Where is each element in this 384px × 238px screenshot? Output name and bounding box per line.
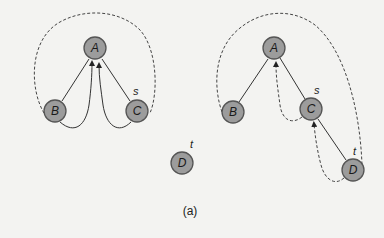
node-d: D: [171, 152, 193, 174]
svg-text:C: C: [307, 102, 316, 116]
label-t: t: [190, 138, 194, 150]
svg-text:D: D: [349, 163, 358, 177]
edge-c-a-curve: [99, 65, 131, 128]
node-c: C: [126, 100, 148, 122]
graph-figure: A B C s D t A B: [0, 0, 384, 238]
node-b: B: [222, 101, 244, 123]
label-s: s: [133, 85, 139, 97]
svg-text:B: B: [51, 104, 59, 118]
edge-d-c-dashed: [314, 124, 344, 182]
right-dashed-loop-edge: [217, 13, 362, 165]
edge-a-b: [239, 59, 268, 102]
label-s: s: [314, 84, 320, 96]
svg-text:A: A: [269, 41, 278, 55]
edge-a-c: [102, 59, 130, 101]
edge-b-a-curve: [60, 63, 92, 128]
node-d: D: [342, 159, 364, 181]
edge-c-d: [318, 119, 346, 160]
node-b: B: [44, 100, 66, 122]
figure-caption: (a): [170, 204, 210, 218]
edge-a-c: [280, 58, 305, 99]
edge-a-b: [62, 59, 89, 101]
svg-text:D: D: [178, 156, 187, 170]
node-c: C: [300, 98, 322, 120]
node-a: A: [263, 37, 285, 59]
node-a: A: [84, 37, 106, 59]
right-graph: A B C s D t: [217, 13, 364, 181]
svg-text:B: B: [229, 105, 237, 119]
svg-text:A: A: [90, 41, 99, 55]
svg-text:C: C: [133, 104, 142, 118]
left-dashed-loop-edge: [34, 13, 155, 113]
left-graph: A B C s D t: [34, 13, 194, 174]
label-t: t: [353, 145, 357, 157]
